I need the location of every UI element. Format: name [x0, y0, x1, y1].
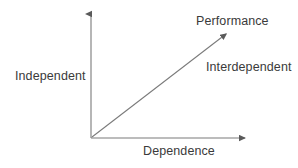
diagonal-head-label: Performance [196, 14, 269, 28]
diagram-canvas: Independent Performance Interdependent D… [0, 0, 298, 168]
x-axis-label: Dependence [143, 144, 215, 158]
diagonal-side-label: Interdependent [206, 60, 292, 74]
y-axis-label: Independent [15, 69, 86, 83]
diagonal-trend-line [92, 34, 226, 137]
